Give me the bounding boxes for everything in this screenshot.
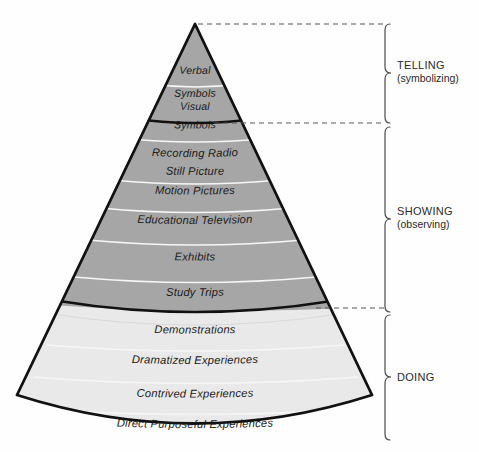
cone-of-experience-diagram: Verbal Symbols Visual Symbols Recording … <box>0 0 479 452</box>
band-label-verbal-symbols-line1: Verbal <box>179 64 211 76</box>
band-label-demonstrations: Demonstrations <box>154 323 236 335</box>
group-title-doing: DOING <box>397 371 435 383</box>
band-label-educational-television: Educational Television <box>137 213 253 226</box>
group-title-showing: SHOWING <box>397 205 453 217</box>
band-label-visual-symbols-line1: Visual <box>180 100 210 112</box>
group-subtitle-telling: (symbolizing) <box>397 72 459 84</box>
bracket-showing <box>385 127 391 312</box>
group-labels: TELLING (symbolizing) SHOWING (observing… <box>397 59 459 383</box>
band-label-verbal-symbols-line2: Symbols <box>174 87 217 99</box>
band-label-visual-symbols-line2: Symbols <box>174 118 217 130</box>
band-label-contrived-experiences: Contrived Experiences <box>136 387 253 400</box>
band-label-exhibits: Exhibits <box>175 250 216 262</box>
band-label-direct-purposeful-experiences: Direct Purposeful Experiences <box>117 417 274 430</box>
bracket-telling <box>385 24 391 123</box>
group-brackets <box>385 24 391 440</box>
band-label-recording-radio-line1: Recording Radio <box>152 146 239 159</box>
band-label-dramatized-experiences: Dramatized Experiences <box>132 353 259 366</box>
bracket-doing <box>385 315 391 440</box>
band-label-recording-radio-line2: Still Picture <box>166 165 225 177</box>
cone-svg: Verbal Symbols Visual Symbols Recording … <box>0 0 479 452</box>
group-title-telling: TELLING <box>397 59 445 71</box>
band-label-study-trips: Study Trips <box>166 286 224 298</box>
band-label-motion-pictures: Motion Pictures <box>155 184 236 197</box>
group-subtitle-showing-text: (observing) <box>397 218 450 230</box>
